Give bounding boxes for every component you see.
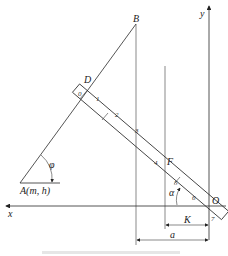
label-a: a — [170, 229, 175, 240]
label-alpha: α — [169, 187, 175, 198]
label-K: K — [183, 214, 192, 225]
scale-mark-0: 0 — [78, 90, 82, 98]
label-A: A(m, h) — [19, 185, 51, 197]
bar-tick — [102, 113, 108, 120]
label-F: F — [166, 156, 174, 167]
scale-mark-1: 1 — [96, 95, 100, 103]
figure-caption — [42, 251, 72, 254]
scale-mark-7: 7 — [211, 215, 215, 223]
label-B: B — [133, 13, 139, 24]
alpha-angle-arc — [176, 188, 180, 205]
x-axis-label: x — [7, 208, 13, 219]
line-AB — [20, 24, 136, 183]
scale-mark-2: 2 — [115, 111, 119, 119]
label-O: O — [212, 195, 219, 206]
scale-mark-3: 3 — [134, 127, 139, 135]
slider-bar — [72, 84, 228, 220]
scale-mark-6: 6 — [192, 194, 196, 202]
mechanism-diagram: x y B A(m, h) φ D F O 0 1 2 3 4 5 6 7 α … — [0, 0, 228, 256]
label-D: D — [83, 74, 92, 85]
scale-mark-4: 4 — [154, 159, 158, 167]
y-axis-label: y — [199, 8, 205, 19]
figure-caption — [70, 251, 180, 254]
label-phi: φ — [49, 159, 55, 170]
